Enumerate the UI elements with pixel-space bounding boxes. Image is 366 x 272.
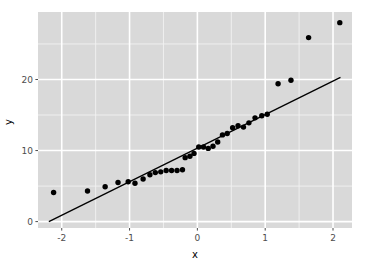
data-point (259, 113, 264, 118)
y-tick-label: 20 (22, 75, 34, 85)
data-point (235, 123, 240, 128)
data-point (174, 168, 179, 173)
data-point (85, 188, 90, 193)
data-point (306, 35, 311, 40)
data-point (220, 132, 225, 137)
scatter-plot-figure: -2-1012 01020 x y (0, 0, 366, 272)
data-point (153, 170, 158, 175)
data-point (180, 167, 185, 172)
data-point (169, 168, 174, 173)
x-tick-label: -1 (125, 233, 134, 243)
data-point (132, 181, 137, 186)
data-point (182, 155, 187, 160)
data-point (275, 81, 280, 86)
x-tick-label: 2 (330, 233, 336, 243)
data-point (201, 144, 206, 149)
data-point (51, 190, 56, 195)
data-point (337, 20, 342, 25)
data-point (288, 78, 293, 83)
data-point (196, 144, 201, 149)
data-point (140, 176, 145, 181)
data-point (215, 139, 220, 144)
data-point (241, 124, 246, 129)
data-point (191, 151, 196, 156)
data-point (158, 169, 163, 174)
y-tick-label: 10 (22, 146, 34, 156)
x-tick-label: -2 (57, 233, 66, 243)
data-point (102, 184, 107, 189)
data-point (246, 120, 251, 125)
y-axis-title: y (3, 119, 14, 125)
data-point (265, 112, 270, 117)
y-tick-label: 0 (27, 217, 33, 227)
data-point (206, 146, 211, 151)
data-point (163, 168, 168, 173)
data-point (210, 144, 215, 149)
x-tick-label: 0 (195, 233, 201, 243)
data-point (230, 125, 235, 130)
x-tick-label: 1 (262, 233, 268, 243)
data-point (125, 179, 130, 184)
data-point (115, 180, 120, 185)
data-point (252, 115, 257, 120)
data-point (225, 131, 230, 136)
x-axis-title: x (192, 249, 198, 260)
data-point (147, 172, 152, 177)
